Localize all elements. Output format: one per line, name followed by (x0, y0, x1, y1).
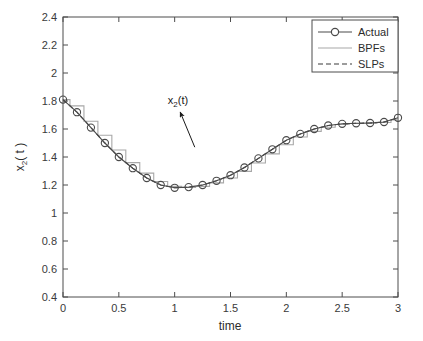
y-axis-tick-labels: 0.40.60.811.21.41.61.822.22.4 (42, 11, 57, 303)
x-tick-label: 1.5 (223, 302, 238, 314)
x-axis-title: time (219, 319, 242, 333)
y-axis-title: x2( t ) (13, 143, 29, 171)
chart-figure: 00.511.522.53 0.40.60.811.21.41.61.822.2… (0, 0, 423, 341)
y-tick-label: 2 (51, 67, 57, 79)
y-tick-label: 1 (51, 207, 57, 219)
y-tick-label: 1.8 (42, 95, 57, 107)
x-tick-label: 3 (395, 302, 401, 314)
x-tick-label: 2 (283, 302, 289, 314)
y-tick-label: 1.4 (42, 151, 57, 163)
y-tick-label: 0.4 (42, 291, 57, 303)
legend[interactable]: ActualBPFsSLPs (312, 20, 398, 72)
chart-plot-area: 00.511.522.53 0.40.60.811.21.41.61.822.2… (0, 0, 423, 341)
x-tick-label: 1 (172, 302, 178, 314)
x-tick-label: 2.5 (335, 302, 350, 314)
x-tick-label: 0 (60, 302, 66, 314)
y-tick-label: 1.2 (42, 179, 57, 191)
x-axis-tick-labels: 00.511.522.53 (60, 302, 401, 314)
x-tick-label: 0.5 (111, 302, 126, 314)
legend-swatch-marker (331, 28, 338, 35)
legend-label: SLPs (358, 58, 385, 70)
y-tick-label: 2.4 (42, 11, 57, 23)
y-tick-label: 0.8 (42, 235, 57, 247)
legend-label: Actual (358, 26, 389, 38)
legend-label: BPFs (358, 42, 385, 54)
y-tick-label: 1.6 (42, 123, 57, 135)
y-tick-label: 0.6 (42, 263, 57, 275)
y-tick-label: 2.2 (42, 39, 57, 51)
